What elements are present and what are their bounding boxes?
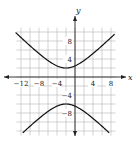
x-tick-label: −8 bbox=[34, 80, 44, 88]
hyperbola-curves bbox=[16, 32, 115, 132]
y-tick-label: −8 bbox=[62, 110, 72, 118]
y-tick-label: 8 bbox=[68, 38, 72, 46]
x-tick-label: −4 bbox=[52, 80, 63, 88]
y-axis-label: y bbox=[75, 6, 81, 15]
x-tick-label: −12 bbox=[14, 80, 29, 88]
x-axis-label: x bbox=[128, 73, 133, 82]
y-tick-label: −4 bbox=[62, 92, 73, 100]
x-tick-label: 8 bbox=[109, 80, 113, 88]
axes bbox=[4, 16, 126, 136]
x-tick-label: 4 bbox=[91, 80, 96, 88]
hyperbola-plot: −12−8−44884−4−8 x y bbox=[0, 0, 134, 141]
y-tick-label: 4 bbox=[68, 56, 73, 64]
